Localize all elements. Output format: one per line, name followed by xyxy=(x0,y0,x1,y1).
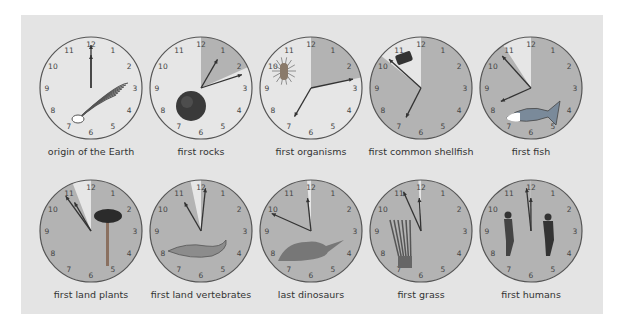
svg-text:5: 5 xyxy=(331,265,336,274)
svg-text:9: 9 xyxy=(265,84,270,93)
svg-text:12: 12 xyxy=(306,40,316,49)
clock-first-fish: 121234567891011 first fish xyxy=(476,33,586,163)
svg-text:2: 2 xyxy=(567,205,572,214)
svg-text:10: 10 xyxy=(158,62,168,71)
svg-text:4: 4 xyxy=(237,249,242,258)
svg-text:2: 2 xyxy=(237,205,242,214)
svg-text:11: 11 xyxy=(174,189,184,198)
clock-origin-of-the-earth: 121234567891011 origin of the Earth xyxy=(36,33,146,163)
svg-text:11: 11 xyxy=(64,46,74,55)
svg-text:10: 10 xyxy=(488,62,498,71)
svg-text:1: 1 xyxy=(331,189,336,198)
svg-text:5: 5 xyxy=(551,265,556,274)
svg-text:10: 10 xyxy=(48,205,58,214)
svg-text:3: 3 xyxy=(573,84,578,93)
clock-first-organisms: 121234567891011 first organisms xyxy=(256,33,366,163)
svg-text:6: 6 xyxy=(419,271,424,280)
svg-text:6: 6 xyxy=(529,128,534,137)
svg-text:10: 10 xyxy=(378,62,388,71)
svg-text:8: 8 xyxy=(161,106,166,115)
svg-text:1: 1 xyxy=(441,189,446,198)
svg-text:7: 7 xyxy=(507,122,512,131)
svg-text:12: 12 xyxy=(416,40,426,49)
svg-text:7: 7 xyxy=(67,265,72,274)
svg-text:9: 9 xyxy=(375,227,380,236)
clock-first-rocks: 121234567891011 first rocks xyxy=(146,33,256,163)
svg-text:9: 9 xyxy=(485,84,490,93)
clock-first-humans: 121234567891011 first humans xyxy=(476,176,586,306)
svg-text:1: 1 xyxy=(221,189,226,198)
svg-text:9: 9 xyxy=(155,84,160,93)
svg-text:3: 3 xyxy=(243,84,248,93)
svg-text:9: 9 xyxy=(375,84,380,93)
svg-text:1: 1 xyxy=(441,46,446,55)
svg-text:2: 2 xyxy=(127,205,132,214)
svg-text:9: 9 xyxy=(155,227,160,236)
svg-text:6: 6 xyxy=(309,271,314,280)
svg-text:8: 8 xyxy=(271,106,276,115)
svg-text:7: 7 xyxy=(397,122,402,131)
clock-face: 121234567891011 xyxy=(366,176,476,286)
clock-label: first fish xyxy=(466,146,596,157)
svg-text:3: 3 xyxy=(133,227,138,236)
clock-first-grass: 121234567891011 first grass xyxy=(366,176,476,306)
svg-text:8: 8 xyxy=(51,106,56,115)
svg-text:11: 11 xyxy=(174,46,184,55)
svg-text:6: 6 xyxy=(199,271,204,280)
clock-face: 121234567891011 xyxy=(36,176,146,286)
planet-icon xyxy=(176,91,206,121)
svg-text:4: 4 xyxy=(567,106,572,115)
svg-text:6: 6 xyxy=(89,271,94,280)
svg-text:7: 7 xyxy=(507,265,512,274)
clock-first-common-shellfish: 121234567891011 first common shellfish xyxy=(366,33,476,163)
clock-first-land-vertebrates: 121234567891011 first land vertebrates xyxy=(146,176,256,306)
clock-face: 121234567891011 xyxy=(256,176,366,286)
svg-text:5: 5 xyxy=(111,122,116,131)
svg-text:8: 8 xyxy=(381,249,386,258)
svg-text:7: 7 xyxy=(287,265,292,274)
svg-text:9: 9 xyxy=(45,227,50,236)
svg-text:6: 6 xyxy=(199,128,204,137)
svg-text:3: 3 xyxy=(243,227,248,236)
svg-text:9: 9 xyxy=(485,227,490,236)
svg-text:4: 4 xyxy=(567,249,572,258)
svg-text:4: 4 xyxy=(457,249,462,258)
svg-text:11: 11 xyxy=(284,46,294,55)
clock-face: 121234567891011 xyxy=(146,33,256,143)
svg-text:2: 2 xyxy=(347,62,352,71)
svg-text:2: 2 xyxy=(567,62,572,71)
svg-text:7: 7 xyxy=(177,122,182,131)
svg-text:2: 2 xyxy=(457,205,462,214)
svg-text:2: 2 xyxy=(127,62,132,71)
svg-text:1: 1 xyxy=(221,46,226,55)
svg-text:5: 5 xyxy=(111,265,116,274)
svg-text:5: 5 xyxy=(221,265,226,274)
svg-text:5: 5 xyxy=(441,122,446,131)
svg-text:10: 10 xyxy=(268,205,278,214)
svg-text:3: 3 xyxy=(133,84,138,93)
svg-text:7: 7 xyxy=(287,122,292,131)
svg-text:4: 4 xyxy=(237,106,242,115)
svg-text:1: 1 xyxy=(111,189,116,198)
svg-text:1: 1 xyxy=(111,46,116,55)
svg-text:3: 3 xyxy=(573,227,578,236)
clock-face: 121234567891011 xyxy=(476,33,586,143)
svg-text:7: 7 xyxy=(67,122,72,131)
svg-text:10: 10 xyxy=(378,205,388,214)
svg-text:6: 6 xyxy=(419,128,424,137)
svg-text:11: 11 xyxy=(284,189,294,198)
clock-face: 121234567891011 xyxy=(146,176,256,286)
svg-text:9: 9 xyxy=(45,84,50,93)
svg-text:11: 11 xyxy=(504,189,514,198)
svg-text:12: 12 xyxy=(196,40,206,49)
svg-text:8: 8 xyxy=(491,249,496,258)
svg-text:3: 3 xyxy=(463,227,468,236)
clock-face: 121234567891011 xyxy=(366,33,476,143)
svg-text:1: 1 xyxy=(331,46,336,55)
svg-text:12: 12 xyxy=(526,40,536,49)
svg-text:2: 2 xyxy=(237,62,242,71)
svg-text:12: 12 xyxy=(416,183,426,192)
svg-text:6: 6 xyxy=(89,128,94,137)
svg-text:12: 12 xyxy=(306,183,316,192)
svg-text:11: 11 xyxy=(394,189,404,198)
